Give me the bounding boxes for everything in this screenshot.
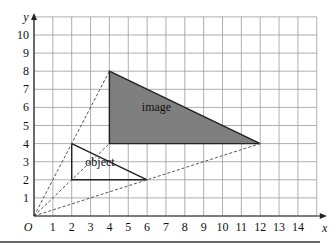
x-tick-label: 1 [50,220,56,234]
x-tick-label: 6 [144,220,150,234]
x-tick-label: 2 [69,220,75,234]
y-tick-label: 5 [23,119,29,133]
x-tick-label: 7 [163,220,169,234]
x-axis-label: x [321,221,328,235]
y-tick-label: 8 [23,64,29,78]
x-tick-label: 12 [254,220,266,234]
y-tick-label: 9 [23,46,29,60]
x-tick-label: 4 [106,220,112,234]
x-tick-label: 11 [236,220,248,234]
y-tick-label: 10 [17,28,29,42]
y-tick-label: 4 [23,137,29,151]
x-tick-label: 8 [182,220,188,234]
object-label: object [85,155,115,169]
origin-label: O [24,220,33,234]
y-tick-label: 2 [23,173,29,187]
image-label: image [142,100,171,114]
y-axis-label: y [22,10,29,24]
x-tick-label: 3 [88,220,94,234]
x-tick-label: 10 [217,220,229,234]
x-tick-label: 5 [125,220,131,234]
x-tick-label: 14 [292,220,304,234]
x-tick-label: 13 [273,220,285,234]
bottom-rule [0,241,320,243]
y-tick-label: 1 [23,191,29,205]
x-tick-label: 9 [201,220,207,234]
enlargement-diagram: 123456789101112131412345678910 image obj… [0,0,335,246]
y-tick-label: 3 [23,155,29,169]
y-tick-label: 6 [23,100,29,114]
y-tick-label: 7 [23,82,29,96]
